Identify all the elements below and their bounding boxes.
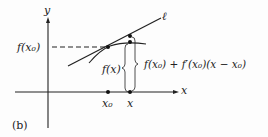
point-tangent-at-x — [128, 34, 132, 38]
function-curve — [89, 43, 146, 63]
linear-approximation-label: f(x₀) + f′(x₀)(x − x₀) — [144, 59, 246, 70]
brace-left — [122, 44, 128, 92]
f-x0-label: f(x₀) — [17, 42, 40, 53]
x-axis-label: x — [181, 85, 187, 96]
point-x0-on-axis — [106, 90, 110, 94]
x-point-label: x — [127, 98, 133, 109]
y-axis-arrow — [46, 17, 50, 23]
point-x0-on-curve — [106, 45, 110, 49]
f-x-label: f(x) — [102, 64, 121, 75]
x-axis-arrow — [173, 90, 179, 94]
y-axis-label: y — [44, 5, 50, 16]
point-x-on-axis — [128, 90, 132, 94]
tangent-line-label: ℓ — [162, 11, 167, 22]
x0-point-label: x₀ — [102, 98, 113, 109]
point-curve-at-x — [128, 40, 132, 44]
brace-right — [132, 37, 138, 91]
tangent-line-approximation-figure: y x ℓ f(x₀) f(x) f(x₀) + f′(x₀)(x − x₀) … — [0, 0, 268, 137]
panel-label: (b) — [12, 120, 28, 131]
